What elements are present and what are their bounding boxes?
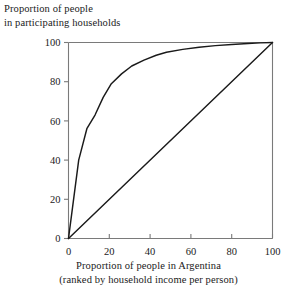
data-series: [69, 43, 273, 239]
y-tick-label: 60: [50, 116, 61, 127]
x-tick-label: 20: [104, 246, 115, 257]
x-tick-label: 80: [226, 246, 237, 257]
x-tick-label: 0: [66, 246, 71, 257]
y-tick-label: 80: [50, 76, 61, 87]
x-axis-title-line-1: Proportion of people in Argentina: [0, 259, 297, 273]
x-tick-label: 40: [145, 246, 156, 257]
x-axis-title: Proportion of people in Argentina (ranke…: [0, 259, 297, 287]
x-tick-label: 100: [265, 246, 281, 257]
axis-tick-labels: 020406080100020406080100: [45, 37, 281, 256]
plot-area: 020406080100020406080100: [0, 0, 297, 298]
series-equality-line: [69, 43, 273, 239]
y-tick-label: 0: [55, 233, 60, 244]
chart-figure: Proportion of people in participating ho…: [0, 0, 297, 298]
x-axis-title-line-2: (ranked by household income per person): [0, 273, 297, 287]
y-tick-label: 20: [50, 194, 61, 205]
y-tick-label: 100: [45, 37, 61, 48]
y-tick-label: 40: [50, 155, 61, 166]
x-tick-label: 60: [186, 246, 197, 257]
